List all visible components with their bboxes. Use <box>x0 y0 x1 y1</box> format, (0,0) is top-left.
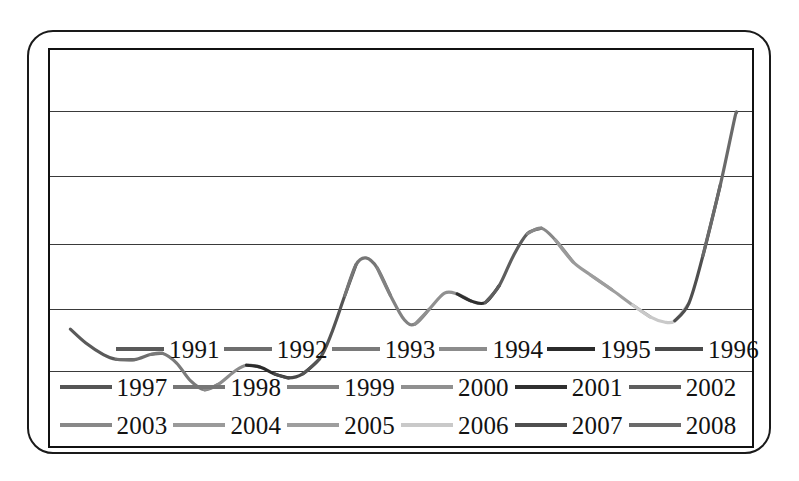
legend-item-2004[interactable]: 2004 <box>173 413 281 438</box>
legend-label: 2003 <box>117 413 168 438</box>
legend-swatch-icon <box>173 385 225 389</box>
legend-swatch-icon <box>655 347 703 351</box>
legend-item-2006[interactable]: 2006 <box>401 413 509 438</box>
legend-swatch-icon <box>515 423 567 427</box>
legend-label: 2004 <box>230 413 281 438</box>
legend-swatch-icon <box>401 423 453 427</box>
legend-label: 2007 <box>572 413 623 438</box>
series-line-1999 <box>377 268 429 325</box>
series-line-2004 <box>555 240 611 290</box>
chart-figure: 199119921993199419951996 199719981999200… <box>0 0 799 481</box>
legend-label: 1993 <box>385 337 436 362</box>
legend-swatch-icon <box>224 347 272 351</box>
legend-label: 1991 <box>169 337 220 362</box>
legend-item-1996[interactable]: 1996 <box>655 337 759 362</box>
legend-swatch-icon <box>515 385 567 389</box>
legend-label: 2006 <box>458 413 509 438</box>
legend-item-1994[interactable]: 1994 <box>439 337 543 362</box>
legend-label: 2000 <box>458 375 509 400</box>
legend-label: 1994 <box>492 337 543 362</box>
legend-item-2000[interactable]: 2000 <box>401 375 509 400</box>
chart-legend: 199119921993199419951996 199719981999200… <box>48 330 754 444</box>
legend-item-1998[interactable]: 1998 <box>173 375 281 400</box>
series-line-2000 <box>415 292 471 324</box>
legend-item-2008[interactable]: 2008 <box>629 413 737 438</box>
series-line-1998 <box>345 258 391 296</box>
series-line-2006 <box>633 303 689 322</box>
legend-label: 1992 <box>277 337 328 362</box>
legend-item-2001[interactable]: 2001 <box>515 375 623 400</box>
legend-label: 1997 <box>117 375 168 400</box>
legend-label: 1998 <box>230 375 281 400</box>
legend-label: 2008 <box>686 413 737 438</box>
legend-swatch-icon <box>547 347 595 351</box>
legend-label: 2001 <box>572 375 623 400</box>
legend-swatch-icon <box>287 423 339 427</box>
series-line-2002 <box>485 228 541 302</box>
legend-item-1995[interactable]: 1995 <box>547 337 651 362</box>
legend-swatch-icon <box>332 347 380 351</box>
legend-item-1993[interactable]: 1993 <box>332 337 436 362</box>
legend-swatch-icon <box>173 423 225 427</box>
legend-item-2003[interactable]: 2003 <box>60 413 168 438</box>
legend-swatch-icon <box>401 385 453 389</box>
legend-item-2005[interactable]: 2005 <box>287 413 395 438</box>
legend-label: 2002 <box>686 375 737 400</box>
legend-row-3: 200320042005200620072008 <box>48 406 754 444</box>
series-line-2001 <box>457 286 499 304</box>
gridline-4 <box>50 309 752 310</box>
legend-label: 2005 <box>344 413 395 438</box>
legend-label: 1995 <box>600 337 651 362</box>
legend-swatch-icon <box>60 385 112 389</box>
gridline-3 <box>50 244 752 245</box>
legend-label: 1999 <box>344 375 395 400</box>
gridline-1 <box>50 111 752 112</box>
legend-swatch-icon <box>116 347 164 351</box>
legend-swatch-icon <box>439 347 487 351</box>
legend-swatch-icon <box>60 423 112 427</box>
legend-row-1: 199119921993199419951996 <box>48 330 754 368</box>
legend-item-2007[interactable]: 2007 <box>515 413 623 438</box>
legend-item-1991[interactable]: 1991 <box>116 337 220 362</box>
series-line-2008 <box>703 112 737 256</box>
legend-item-2002[interactable]: 2002 <box>629 375 737 400</box>
legend-item-1999[interactable]: 1999 <box>287 375 395 400</box>
legend-item-1997[interactable]: 1997 <box>60 375 168 400</box>
legend-row-2: 199719981999200020012002 <box>48 368 754 406</box>
legend-item-1992[interactable]: 1992 <box>224 337 328 362</box>
gridline-2 <box>50 176 752 177</box>
legend-swatch-icon <box>629 385 681 389</box>
series-line-2007 <box>675 185 721 321</box>
series-line-2005 <box>591 275 651 317</box>
legend-label: 1996 <box>708 337 759 362</box>
legend-swatch-icon <box>287 385 339 389</box>
legend-swatch-icon <box>629 423 681 427</box>
